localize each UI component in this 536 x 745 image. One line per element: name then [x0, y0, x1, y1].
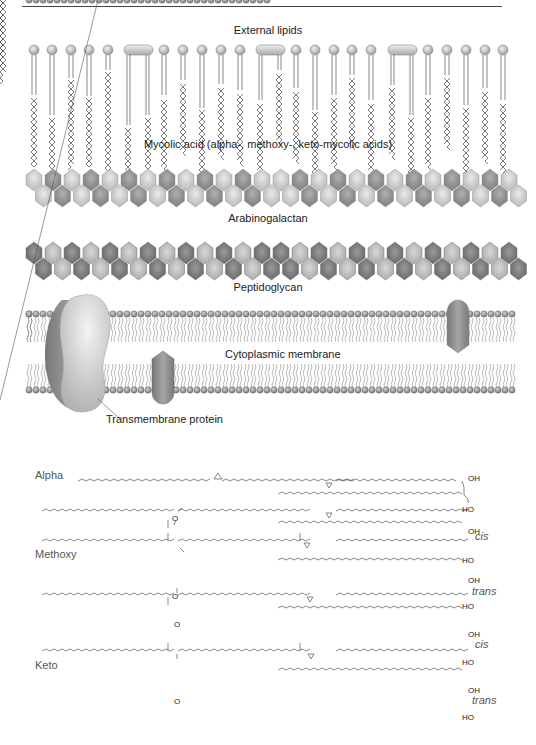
- label-peptidoglycan: Peptidoglycan: [0, 281, 536, 293]
- external-lipid-tails: [32, 55, 505, 125]
- label-ho-keto-cis: HO: [462, 658, 474, 667]
- label-ho-methoxy-trans: HO: [462, 602, 474, 611]
- label-o-keto-trans: O: [174, 697, 180, 706]
- label-o-methoxy-cis: O: [172, 514, 178, 523]
- peptidoglycan-layer: [26, 242, 527, 280]
- label-external-lipids: External lipids: [0, 24, 536, 36]
- label-oh-methoxy-trans: OH: [468, 576, 480, 585]
- label-oh-methoxy-cis: OH: [468, 527, 480, 536]
- label-arabinogalactan: Arabinogalactan: [0, 212, 536, 224]
- label-methoxy: Methoxy: [35, 548, 77, 560]
- transmembrane-protein-large: [45, 295, 110, 412]
- label-alpha: Alpha: [35, 469, 63, 481]
- arabinogalactan-layer: [26, 169, 527, 207]
- mycolic-acid-structures: [42, 473, 468, 670]
- label-cytoplasmic-membrane: Cytoplasmic membrane: [225, 348, 341, 360]
- label-ho-keto-trans: HO: [462, 713, 474, 722]
- external-lipid-heads: [29, 45, 508, 55]
- small-membrane-protein-left: [152, 351, 174, 404]
- label-o-keto-cis: O: [174, 620, 180, 629]
- label-transmembrane-protein: Transmembrane protein: [106, 413, 223, 425]
- label-keto-cis: cis: [475, 638, 488, 650]
- label-keto: Keto: [35, 659, 58, 671]
- label-methoxy-trans: trans: [472, 585, 496, 597]
- label-oh-alpha: OH: [468, 474, 480, 483]
- label-oh-keto-cis: OH: [468, 630, 480, 639]
- label-o-methoxy-trans: O: [172, 592, 178, 601]
- label-ho-alpha: HO: [462, 505, 474, 514]
- label-keto-trans: trans: [472, 694, 496, 706]
- small-membrane-protein-right: [447, 300, 469, 353]
- label-ho-methoxy-cis: HO: [462, 556, 474, 565]
- label-mycolic-acid: Mycolic acid (alpha-, methoxy-, keto-myc…: [0, 138, 536, 150]
- cell-envelope-diagram: [0, 0, 536, 745]
- label-oh-keto-trans: OH: [468, 686, 480, 695]
